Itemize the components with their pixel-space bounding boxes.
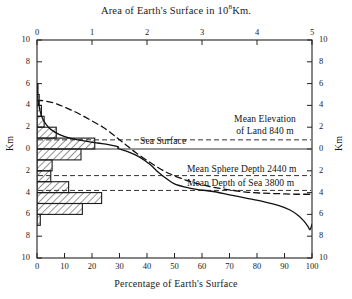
left-tick-label-9: 8 bbox=[26, 230, 30, 240]
chart-canvas bbox=[0, 0, 352, 299]
histogram-bar-6 bbox=[37, 149, 81, 160]
label-mean-elevation-line1: Mean Elevation bbox=[234, 114, 296, 124]
top-tick-label-2: 2 bbox=[145, 27, 149, 37]
histogram-bar-8 bbox=[37, 171, 51, 182]
histogram-bars bbox=[37, 84, 102, 226]
top-tick-label-0: 0 bbox=[35, 27, 39, 37]
histogram-bar-4 bbox=[37, 127, 56, 138]
histogram-bar-3 bbox=[37, 116, 44, 127]
label-mean-elevation-line2: of Land 840 m bbox=[236, 126, 294, 136]
bottom-tick-label-2: 20 bbox=[88, 261, 97, 271]
left-tick-label-0: 10 bbox=[22, 34, 31, 44]
right-tick-label-0: 10 bbox=[319, 34, 328, 44]
left-tick-label-10: 10 bbox=[22, 252, 31, 262]
right-tick-label-2: 6 bbox=[319, 78, 323, 88]
histogram-bar-9 bbox=[37, 182, 69, 193]
right-tick-label-8: 6 bbox=[319, 208, 323, 218]
bottom-tick-label-8: 80 bbox=[253, 261, 262, 271]
top-tick-label-4: 4 bbox=[255, 27, 259, 37]
bottom-tick-label-6: 60 bbox=[198, 261, 207, 271]
left-tick-label-7: 4 bbox=[26, 187, 30, 197]
bottom-tick-label-9: 90 bbox=[280, 261, 289, 271]
left-tick-label-5: 0 bbox=[26, 143, 30, 153]
histogram-bar-11 bbox=[37, 204, 82, 215]
bottom-tick-label-10: 100 bbox=[306, 261, 319, 271]
label-sea-surface: Sea Surface bbox=[140, 136, 186, 146]
right-tick-label-6: 2 bbox=[319, 165, 323, 175]
right-tick-label-5: 0 bbox=[319, 143, 323, 153]
bottom-tick-label-4: 40 bbox=[143, 261, 152, 271]
bottom-tick-label-0: 0 bbox=[35, 261, 39, 271]
bottom-tick-label-1: 10 bbox=[60, 261, 69, 271]
bottom-tick-label-3: 30 bbox=[115, 261, 124, 271]
top-tick-label-5: 5 bbox=[310, 27, 314, 37]
top-tick-label-3: 3 bbox=[200, 27, 204, 37]
histogram-bar-7 bbox=[37, 160, 52, 171]
right-tick-label-10: 10 bbox=[319, 252, 328, 262]
right-tick-label-9: 8 bbox=[319, 230, 323, 240]
label-mean-depth-sea: Mean Depth of Sea 3800 m bbox=[187, 178, 294, 188]
bottom-tick-label-5: 50 bbox=[170, 261, 179, 271]
right-tick-label-7: 4 bbox=[319, 187, 323, 197]
left-tick-label-4: 2 bbox=[26, 121, 30, 131]
left-tick-label-3: 4 bbox=[26, 99, 30, 109]
left-tick-label-1: 8 bbox=[26, 56, 30, 66]
histogram-bar-10 bbox=[37, 193, 102, 204]
right-tick-label-4: 2 bbox=[319, 121, 323, 131]
top-tick-label-1: 1 bbox=[90, 27, 94, 37]
bottom-tick-label-7: 70 bbox=[225, 261, 234, 271]
right-tick-label-1: 8 bbox=[319, 56, 323, 66]
label-mean-sphere-depth: Mean Sphere Depth 2440 m bbox=[187, 164, 297, 174]
left-tick-label-2: 6 bbox=[26, 78, 30, 88]
left-tick-label-6: 2 bbox=[26, 165, 30, 175]
hypsometric-chart: Area of Earth's Surface in 108Km. Km Km … bbox=[0, 0, 352, 299]
left-tick-label-8: 6 bbox=[26, 208, 30, 218]
right-tick-label-3: 4 bbox=[319, 99, 323, 109]
